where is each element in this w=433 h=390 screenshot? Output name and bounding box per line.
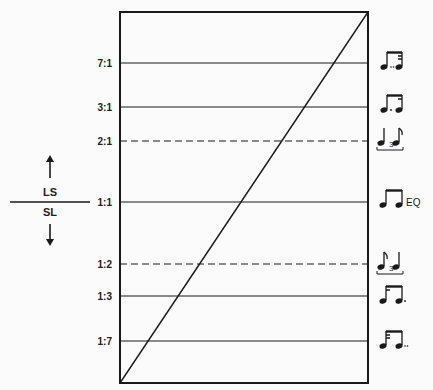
rhythm-sixteenth-dotted-eighth-icon [379,286,406,305]
rhythm-triplet-quarter-eighth-icon: 3 [377,128,403,150]
rhythm-even-eighths-icon: EQ [379,190,421,209]
equal-suffix: EQ [406,197,421,208]
ratio-diagram: 7:1 3:1 2:1 1:1 1:2 1:3 1:7 LS SL [0,0,433,390]
legend-upper-label: LS [43,186,57,198]
up-arrow-icon [46,155,54,178]
ratio-label: 7:1 [98,58,113,69]
ratio-label: 1:7 [98,336,113,347]
rhythm-thirtysecond-double-dotted-eighth-icon [379,331,409,350]
ratio-label: 3:1 [98,102,113,113]
svg-text:3: 3 [389,140,394,149]
rhythm-triplet-eighth-quarter-icon: 3 [377,252,403,274]
legend-lower-label: SL [43,206,57,218]
ratio-label: 2:1 [98,136,113,147]
svg-text:3: 3 [389,264,394,273]
ratio-label: 1:3 [98,291,113,302]
ratio-label: 1:1 [98,197,113,208]
rhythm-double-dotted-eighth-thirtysecond-icon [380,52,404,71]
diagonal-line [120,12,368,383]
down-arrow-icon [46,224,54,246]
rhythm-dotted-eighth-sixteenth-icon [380,95,404,114]
ratio-label: 1:2 [98,259,113,270]
